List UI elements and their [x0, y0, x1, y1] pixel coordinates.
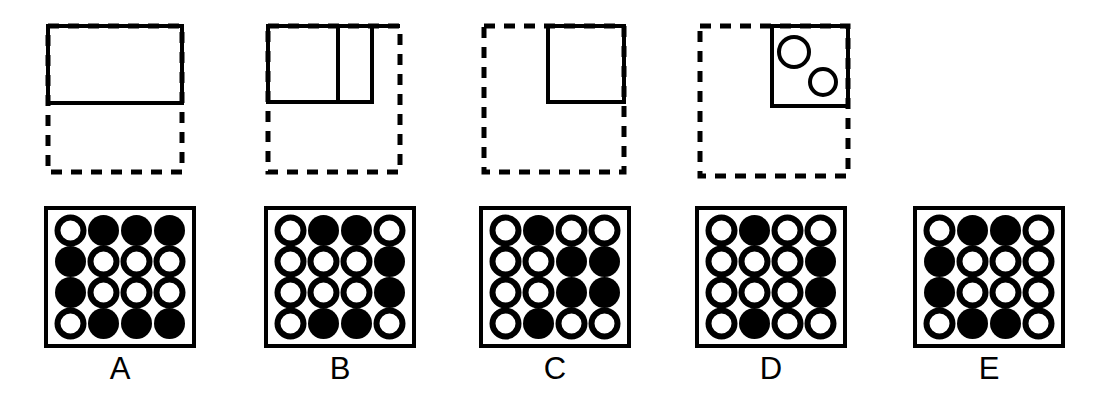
figure-b-solid-rect-0	[268, 26, 372, 102]
grid-b-dot-r2c1-open	[278, 249, 304, 275]
grid-b-dot-r3c1-open	[278, 280, 304, 306]
figure-d-circle-1	[810, 69, 836, 95]
grid-e-dot-r4c2-filled	[957, 308, 988, 339]
grid-a-dot-r4c1-open	[58, 311, 84, 337]
grid-d-dot-r2c4-filled	[805, 246, 836, 277]
puzzle-canvas: ABCDE	[0, 0, 1102, 416]
grid-c-dot-r1c3-open	[559, 218, 585, 244]
grid-c-dot-r2c2-open	[526, 249, 552, 275]
figure-a	[48, 26, 182, 172]
grid-e-dot-r1c3-filled	[990, 215, 1021, 246]
grid-b-dot-r3c3-open	[344, 280, 370, 306]
grid-e-dot-r4c1-open	[927, 311, 953, 337]
option-b	[266, 26, 414, 346]
grid-a-dot-r3c2-open	[91, 280, 117, 306]
grid-b-dot-r4c4-open	[377, 311, 403, 337]
grid-c-dot-r2c3-filled	[556, 246, 587, 277]
grid-b-dot-r4c3-filled	[341, 308, 372, 339]
grid-d-dot-r3c3-open	[775, 280, 801, 306]
option-label-e: E	[913, 352, 1065, 386]
grid-a-dot-r2c2-open	[91, 249, 117, 275]
grid-e-dot-r3c3-open	[993, 280, 1019, 306]
figure-d-solid-rect-0	[772, 26, 848, 106]
grid-a-dot-r4c4-filled	[154, 308, 185, 339]
grid-e	[915, 208, 1063, 346]
grid-a-dot-r1c4-filled	[154, 215, 185, 246]
grid-d-dot-r3c2-open	[742, 280, 768, 306]
grid-b-dot-r3c4-filled	[374, 277, 405, 308]
grid-a-dot-r2c3-open	[124, 249, 150, 275]
grid-c-dot-r1c4-open	[592, 218, 618, 244]
grid-a-dot-r4c2-filled	[88, 308, 119, 339]
grid-e-dot-r3c2-open	[960, 280, 986, 306]
grid-c-dot-r3c4-filled	[589, 277, 620, 308]
grid-b-dot-r2c4-filled	[374, 246, 405, 277]
grid-b-dot-r1c1-open	[278, 218, 304, 244]
figure-d	[700, 26, 848, 176]
option-e	[915, 208, 1063, 346]
grid-e-dot-r3c1-filled	[924, 277, 955, 308]
grid-c-dot-r1c2-filled	[523, 215, 554, 246]
grid-a-dot-r4c3-filled	[121, 308, 152, 339]
grid-c-dot-r1c1-open	[493, 218, 519, 244]
grid-e-dot-r1c4-open	[1026, 218, 1052, 244]
grid-a-dot-r2c1-filled	[55, 246, 86, 277]
grid-d-dot-r2c1-open	[709, 249, 735, 275]
grid-d-dot-r4c1-open	[709, 311, 735, 337]
grid-d-dot-r4c3-open	[775, 311, 801, 337]
grid-a-dot-r3c3-open	[124, 280, 150, 306]
grid-d	[697, 208, 845, 346]
grid-d-dot-r2c2-open	[742, 249, 768, 275]
grid-d-dot-r1c1-open	[709, 218, 735, 244]
option-c	[481, 26, 629, 346]
grid-c-dot-r4c2-filled	[523, 308, 554, 339]
grid-b	[266, 208, 414, 346]
grid-b-dot-r3c2-open	[311, 280, 337, 306]
option-a	[46, 26, 194, 346]
grid-d-dot-r1c2-filled	[739, 215, 770, 246]
grid-e-dot-r1c2-filled	[957, 215, 988, 246]
grid-d-dot-r4c4-open	[808, 311, 834, 337]
grid-e-dot-r4c4-open	[1026, 311, 1052, 337]
grid-a-dot-r1c3-filled	[121, 215, 152, 246]
figure-a-dashed-square	[48, 26, 182, 172]
grid-d-dot-r3c1-open	[709, 280, 735, 306]
figure-d-circle-0	[779, 37, 809, 67]
grid-c-dot-r2c4-filled	[589, 246, 620, 277]
option-d	[697, 26, 848, 346]
grid-b-dot-r2c2-open	[311, 249, 337, 275]
grid-e-dot-r2c4-open	[1026, 249, 1052, 275]
grid-a-dot-r3c1-filled	[55, 277, 86, 308]
grid-c-dot-r3c2-open	[526, 280, 552, 306]
grid-e-dot-r1c1-open	[927, 218, 953, 244]
grid-b-dot-r4c1-open	[278, 311, 304, 337]
grid-b-dot-r1c3-filled	[341, 215, 372, 246]
figure-c-dashed-square	[484, 26, 624, 172]
grid-c-dot-r4c1-open	[493, 311, 519, 337]
figure-b-dashed-square	[268, 26, 400, 172]
grid-e-dot-r3c4-open	[1026, 280, 1052, 306]
grid-d-dot-r4c2-filled	[739, 308, 770, 339]
option-label-d: D	[695, 352, 847, 386]
grid-d-dot-r2c3-open	[775, 249, 801, 275]
grid-c-dot-r3c1-open	[493, 280, 519, 306]
grid-e-dot-r2c1-filled	[924, 246, 955, 277]
grid-b-dot-r2c3-open	[344, 249, 370, 275]
grid-d-dot-r3c4-filled	[805, 277, 836, 308]
option-label-c: C	[479, 352, 631, 386]
figure-a-solid-rect-0	[48, 26, 182, 103]
grid-c-dot-r2c1-open	[493, 249, 519, 275]
grid-e-dot-r2c2-open	[960, 249, 986, 275]
grid-a-dot-r1c2-filled	[88, 215, 119, 246]
grid-a-dot-r1c1-open	[58, 218, 84, 244]
grid-a-dot-r3c4-open	[157, 280, 183, 306]
grid-d-dot-r1c3-open	[775, 218, 801, 244]
figure-c-solid-rect-0	[548, 26, 624, 102]
grid-e-dot-r2c3-open	[993, 249, 1019, 275]
grid-b-dot-r1c2-filled	[308, 215, 339, 246]
option-label-b: B	[264, 352, 416, 386]
figure-b	[268, 26, 400, 172]
grid-a	[46, 208, 194, 346]
grid-c	[481, 208, 629, 346]
grid-c-dot-r4c4-open	[592, 311, 618, 337]
